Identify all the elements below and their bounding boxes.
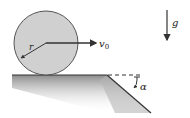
rolling-disk-diagram: r v0 g α [0, 0, 190, 118]
velocity-label: v0 [99, 38, 109, 51]
ground [12, 75, 151, 113]
angle-label: α [140, 81, 147, 92]
angle-arc-arrow [134, 80, 137, 88]
gravity-label: g [172, 17, 178, 28]
radius-label: r [29, 42, 34, 52]
